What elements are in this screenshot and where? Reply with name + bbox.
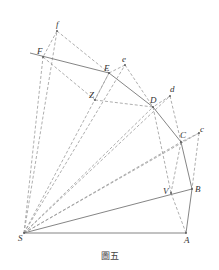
solid-line [109,73,153,107]
point-C [180,141,182,143]
point-D [152,106,154,108]
dashed-line [95,100,153,107]
point-label-f: f [56,19,60,29]
orbit-diagram: SABVCcDdEeZFf [0,0,219,270]
point-label-V: V [163,186,170,196]
dashed-line [171,193,186,233]
point-label-F: F [36,46,43,56]
dashed-line [43,57,95,100]
point-V [170,192,172,194]
point-label-A: A [183,235,190,245]
point-S [23,232,25,234]
point-label-E: E [103,63,110,73]
dashed-line [24,96,170,233]
point-label-B: B [195,184,201,194]
point-F [42,56,44,58]
point-A [185,232,187,234]
dashed-line [171,142,181,193]
point-label-C: C [180,130,187,140]
figure-caption: 圖五 [0,249,219,262]
point-label-D: D [149,95,157,105]
point-label-d: d [170,84,175,94]
dashed-line [153,107,171,193]
dashed-line [125,65,153,107]
point-e [124,64,126,66]
point-label-Z: Z [89,90,95,100]
solid-line [153,107,181,142]
point-d [169,95,171,97]
point-Z [94,99,96,101]
dashed-line [24,31,57,233]
solid-line [186,189,192,233]
point-label-S: S [18,233,23,243]
point-label-e: e [122,54,126,64]
solid-line [181,142,192,189]
point-label-c: c [200,124,204,134]
point-f [56,30,58,32]
point-B [191,188,193,190]
dashed-line [192,133,199,189]
